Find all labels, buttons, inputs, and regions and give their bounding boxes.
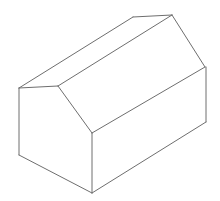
wireframe-house-figure: Isometric wireframe of a gable-roofed re…: [0, 0, 220, 201]
figure-canvas: Isometric wireframe of a gable-roofed re…: [0, 0, 220, 201]
